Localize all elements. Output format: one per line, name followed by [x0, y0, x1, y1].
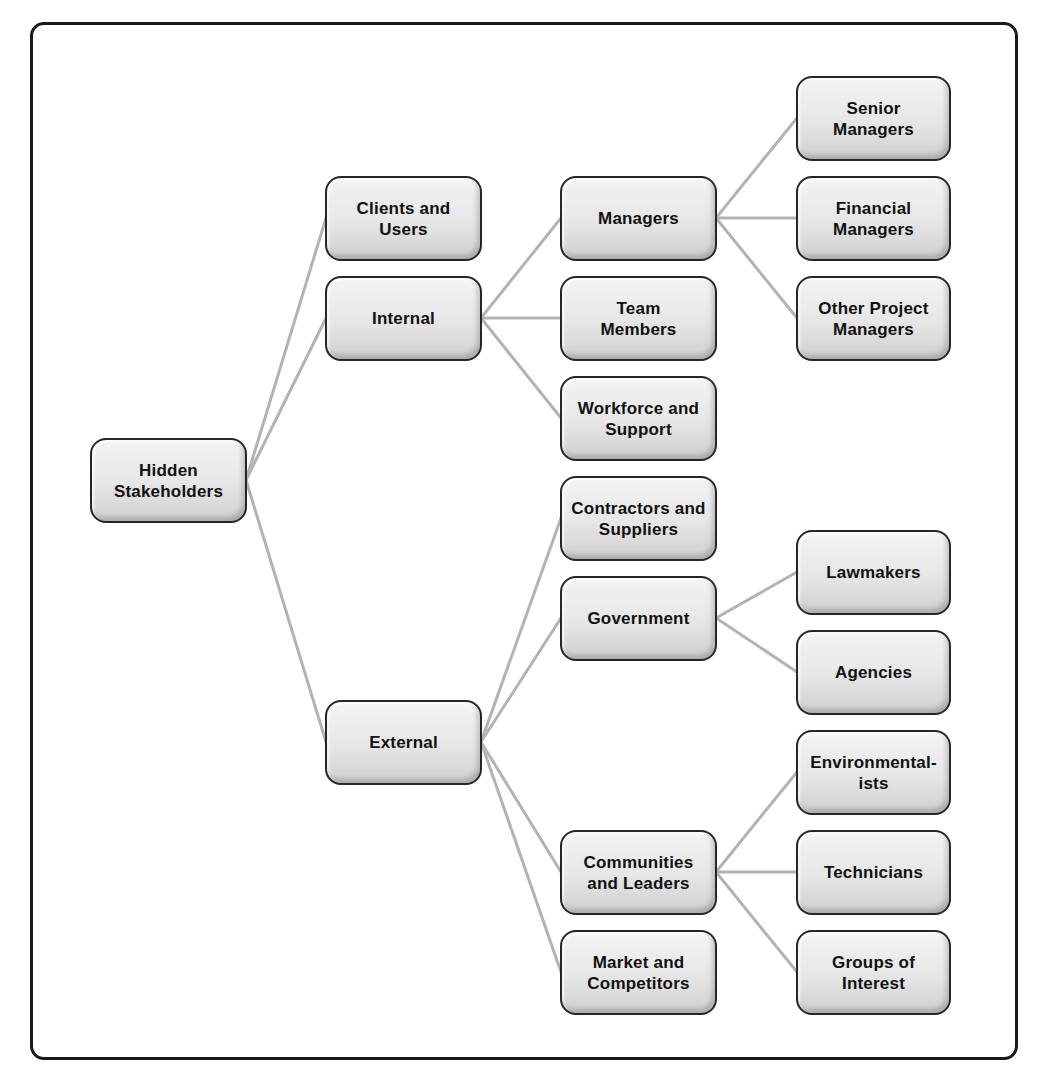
node-agencies: Agencies [796, 630, 951, 715]
node-label: Workforce and Support [569, 398, 709, 440]
node-label: Lawmakers [826, 562, 920, 583]
node-other-project-managers: Other Project Managers [796, 276, 951, 361]
node-workforce-and-support: Workforce and Support [560, 376, 717, 461]
node-label: Hidden Stakeholders [114, 460, 224, 502]
node-label: Senior Managers [824, 98, 924, 140]
node-groups-of-interest: Groups of Interest [796, 930, 951, 1015]
node-technicians: Technicians [796, 830, 951, 915]
node-market-and-competitors: Market and Competitors [560, 930, 717, 1015]
node-label: Environmental-ists [809, 752, 939, 794]
node-senior-managers: Senior Managers [796, 76, 951, 161]
node-government: Government [560, 576, 717, 661]
node-team-members: Team Members [560, 276, 717, 361]
node-label: Team Members [599, 298, 679, 340]
node-financial-managers: Financial Managers [796, 176, 951, 261]
node-label: Agencies [835, 662, 912, 683]
node-label: Other Project Managers [811, 298, 936, 340]
node-label: External [369, 732, 438, 753]
node-contractors-and-suppliers: Contractors and Suppliers [560, 476, 717, 561]
node-managers: Managers [560, 176, 717, 261]
node-label: Technicians [824, 862, 923, 883]
node-label: Clients and Users [349, 198, 459, 240]
node-label: Communities and Leaders [581, 852, 696, 894]
node-label: Managers [598, 208, 679, 229]
node-external: External [325, 700, 482, 785]
node-label: Internal [372, 308, 435, 329]
node-environmentalists: Environmental-ists [796, 730, 951, 815]
node-label: Financial Managers [824, 198, 924, 240]
node-hidden-stakeholders: Hidden Stakeholders [90, 438, 247, 523]
node-label: Contractors and Suppliers [568, 498, 709, 540]
node-lawmakers: Lawmakers [796, 530, 951, 615]
node-internal: Internal [325, 276, 482, 361]
node-label: Groups of Interest [826, 952, 921, 994]
node-label: Government [587, 608, 689, 629]
node-label: Market and Competitors [584, 952, 694, 994]
node-clients-and-users: Clients and Users [325, 176, 482, 261]
node-communities-and-leaders: Communities and Leaders [560, 830, 717, 915]
